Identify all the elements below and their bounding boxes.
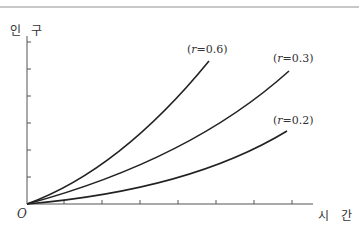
x-ticks <box>64 200 292 204</box>
curve-r-0-6 <box>27 61 209 204</box>
origin-label: O <box>17 207 27 221</box>
label-r-0-6: (r=0.6) <box>187 43 228 56</box>
label-r-0-3: (r=0.3) <box>273 52 314 65</box>
curve-r-0-3 <box>27 71 289 204</box>
y-ticks <box>27 42 31 177</box>
label-r-0-2: (r=0.2) <box>273 114 314 127</box>
x-axis-label: 시 간 <box>318 206 356 223</box>
y-axis-label: 인 구 <box>10 21 45 38</box>
